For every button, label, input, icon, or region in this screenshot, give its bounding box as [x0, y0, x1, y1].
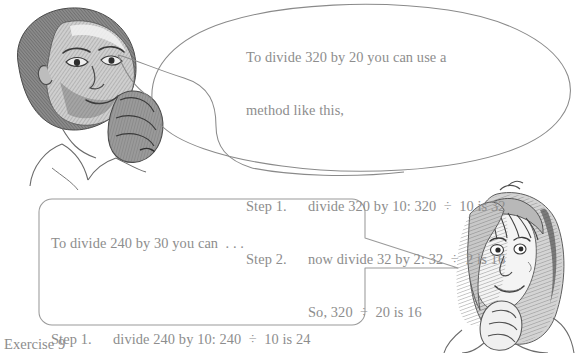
bubble-bottom-step-1: Step 1.divide 240 by 10: 240 ÷ 10 is 24 [51, 331, 311, 349]
bubble-tail-boy-upper [118, 55, 152, 99]
bubble-top-intro-line-2: method like this, [246, 102, 506, 120]
bubble-top-intro-line-1: To divide 320 by 20 you can use a [246, 49, 506, 67]
girl-eye-right [514, 244, 526, 254]
bubble-bottom-step-1-text: divide 240 by 10: 240 ÷ 10 is 24 [113, 331, 311, 347]
bubble-tail-boy-lower [118, 55, 252, 168]
boy-hand [108, 91, 163, 162]
girl-shoulder-right [553, 318, 574, 353]
bubble-top-conclusion: So, 320 ÷ 20 is 16 [308, 304, 422, 320]
bubble-top-step-1-text: divide 320 by 10: 320 ÷ 10 is 32 [308, 198, 506, 214]
boy-thinking-illustration [10, 0, 180, 190]
boy-eye-right [101, 56, 122, 65]
worksheet-page: To divide 320 by 20 you can use a method… [0, 0, 575, 353]
spacer [51, 288, 311, 296]
boy-eye-left [66, 58, 88, 67]
bubble-bottom-text-block: To divide 240 by 30 you can . . . Step 1… [51, 200, 311, 353]
bubble-top-step-2-text: now divide 32 by 2: 32 ÷ 2 is 16 [308, 251, 505, 267]
spacer [246, 155, 506, 163]
bubble-bottom-intro-line-1: To divide 240 by 30 you can . . . [51, 235, 311, 253]
boy-shoulder-left [30, 144, 62, 186]
exercise-label: Exercise 9 [4, 336, 65, 353]
